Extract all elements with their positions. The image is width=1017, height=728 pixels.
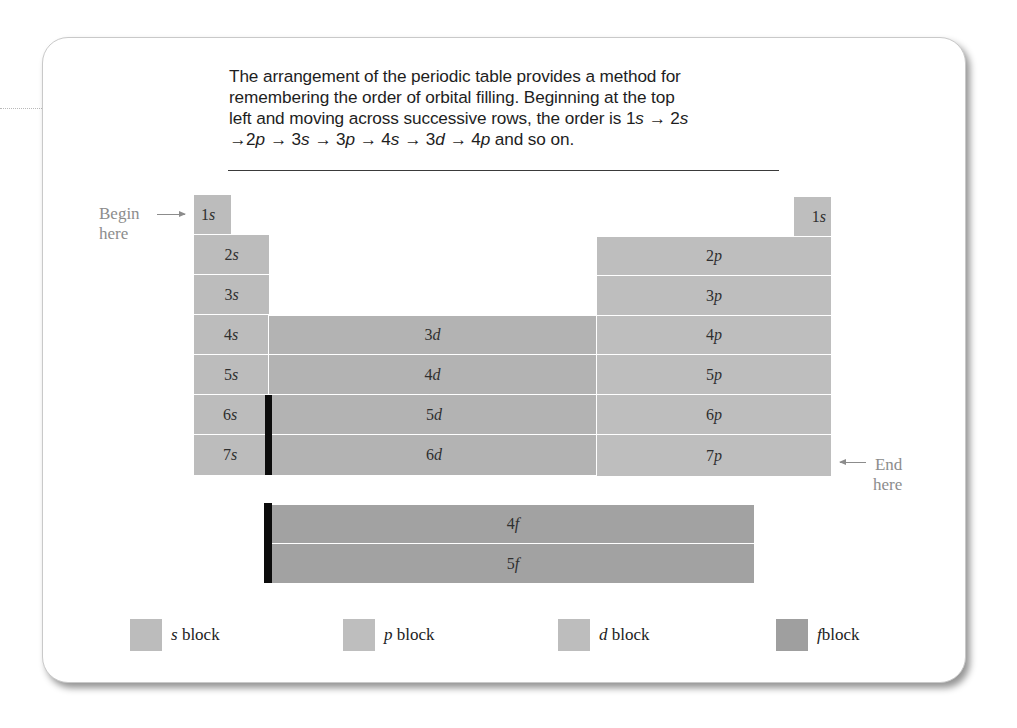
cell-3s: 3s (194, 275, 269, 314)
arrow-icon: → (449, 129, 466, 149)
cell-7s: 7s (194, 435, 266, 475)
arrow-icon: → (229, 129, 246, 149)
cell-5p: 5p (597, 355, 831, 394)
begin-arrow-icon (157, 214, 185, 215)
p-block-swatch (343, 619, 375, 651)
cell-4p: 4p (597, 316, 831, 354)
seq-6: 3d (426, 129, 445, 149)
caption-line-1: The arrangement of the periodic table pr… (229, 66, 789, 87)
cell-2p: 2p (597, 237, 831, 275)
seq-3: 3s (292, 129, 310, 149)
legend-f-block: fblock (776, 619, 860, 651)
figure-caption: The arrangement of the periodic table pr… (229, 66, 789, 150)
cell-3p: 3p (597, 276, 831, 315)
arrow-icon: → (314, 129, 331, 149)
seq-4: 3p (336, 129, 355, 149)
caption-underline (228, 170, 779, 171)
cell-5d: 5d (272, 395, 596, 434)
arrow-icon: → (360, 129, 377, 149)
arrow-icon: → (270, 129, 287, 149)
caption-line-3: left and moving across successive rows, … (229, 108, 789, 129)
end-arrow-icon (840, 462, 866, 463)
seq-5: 4s (381, 129, 399, 149)
s-block-swatch (130, 619, 162, 651)
seq-0: 1s (626, 108, 644, 128)
d-block-swatch (558, 619, 590, 651)
cell-5s: 5s (194, 355, 268, 394)
cell-6p: 6p (597, 395, 831, 434)
seq-2: 2p (246, 129, 265, 149)
legend-s-block: s block (130, 619, 220, 651)
cell-2s: 2s (194, 235, 269, 274)
cell-6d: 6d (272, 435, 596, 475)
lanthanide-actinide-separator (265, 395, 272, 475)
cell-5f: 5f (272, 544, 754, 583)
arrow-icon: → (404, 129, 421, 149)
cell-1s: 1s (194, 195, 231, 234)
connector-line (0, 108, 42, 109)
f-block-separator (264, 503, 272, 583)
legend-p-block: p block (343, 619, 435, 651)
end-here-label: End here (871, 455, 902, 495)
begin-here-label: Begin here (99, 204, 140, 244)
caption-line-4: →2p → 3s → 3p → 4s → 3d → 4p and so on. (229, 129, 789, 150)
f-block-swatch (776, 619, 808, 651)
cell-3d: 3d (269, 316, 596, 354)
cell-1s-helium: 1s (794, 197, 831, 236)
legend-d-block: d block (558, 619, 650, 651)
cell-4d: 4d (269, 355, 596, 394)
cell-4f: 4f (272, 505, 754, 543)
cell-7p: 7p (597, 435, 831, 476)
caption-line-2: remembering the order of orbital filling… (229, 87, 789, 108)
cell-4s: 4s (194, 315, 268, 354)
cell-6s: 6s (194, 395, 266, 434)
arrow-icon: → (649, 108, 666, 128)
seq-1: 2s (670, 108, 688, 128)
seq-7: 4p (471, 129, 490, 149)
